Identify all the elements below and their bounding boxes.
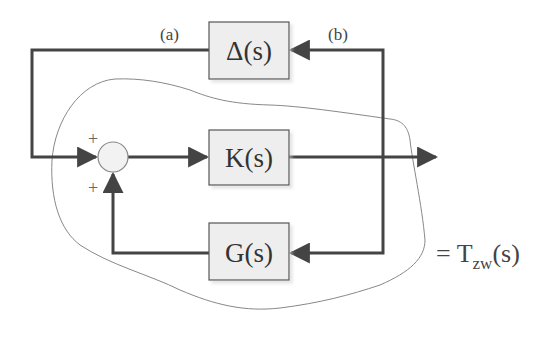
tf-subscript: zw (473, 254, 494, 273)
delta-block-label: Δ(s) (226, 36, 272, 66)
wire-to-g (291, 157, 383, 253)
summing-junction (98, 142, 128, 172)
signal-label-a: (a) (160, 25, 179, 44)
block-diagram: + + Δ(s) K(s) G(s) (a) (b) = Tzw(s) (0, 0, 557, 339)
wire-delta-to-sum (32, 50, 209, 157)
delta-block: Δ(s) (209, 22, 289, 79)
sum-sign-left: + (88, 129, 98, 149)
controller-block: K(s) (209, 130, 289, 185)
wire-g-to-sum (113, 174, 209, 253)
transfer-function-label: = Tzw(s) (436, 239, 520, 273)
sum-sign-bottom: + (88, 178, 98, 198)
plant-block-label: G(s) (225, 238, 273, 268)
wire-to-delta (291, 50, 383, 157)
plant-block: G(s) (209, 223, 289, 280)
tf-prefix: = T (436, 239, 473, 268)
controller-block-label: K(s) (225, 143, 273, 173)
tf-suffix: (s) (492, 239, 519, 268)
signal-label-b: (b) (328, 25, 348, 44)
